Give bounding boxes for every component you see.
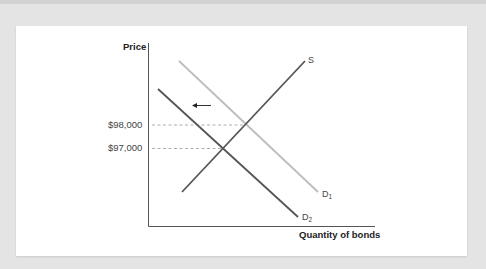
tick-label-97000: $97,000 [108,142,142,153]
supply-demand-chart [0,0,486,269]
supply-label: S [308,55,314,65]
tick-label-98000: $98,000 [108,119,142,130]
d2-label-sub: 2 [309,216,313,223]
d1-label: D1 [322,189,332,200]
d2-label: D2 [302,212,312,223]
x-axis-label: Quantity of bonds [299,229,380,240]
d1-label-sub: 1 [329,193,333,200]
y-axis-label: Price [123,41,146,52]
left-arrow-icon [192,103,211,108]
